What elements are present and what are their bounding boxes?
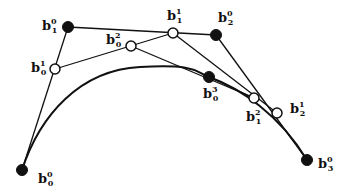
label-b0_2: b20	[106, 30, 122, 49]
segment-b0_2-b1_2	[131, 46, 254, 98]
segment-b1_1-b2_1	[173, 33, 277, 113]
bezier-curve	[22, 66, 307, 170]
segment-b0_0-b1_0	[22, 27, 68, 170]
open-point-b2_1	[272, 108, 282, 118]
segment-b2_0-b3_0	[216, 35, 307, 160]
filled-point-b0_3	[204, 72, 215, 83]
label-b1_0: b01	[42, 16, 57, 35]
label-b0_3: b30	[203, 84, 219, 103]
open-point-b0_2	[126, 41, 136, 51]
segment-b1_0-b2_0	[68, 27, 216, 35]
control-points	[17, 22, 313, 176]
filled-point-b3_0	[302, 155, 313, 166]
filled-point-b0_0	[17, 165, 28, 176]
label-b1_2: b21	[246, 107, 261, 126]
filled-point-b1_0	[63, 22, 74, 33]
open-point-b1_1	[168, 28, 178, 38]
open-point-b1_2	[249, 93, 259, 103]
label-b0_1: b10	[31, 58, 47, 77]
open-point-b0_1	[50, 64, 60, 74]
label-b0_0: b00	[38, 169, 54, 187]
bezier-diagram: b00b01b02b03b10b11b12b20b21b30	[0, 0, 347, 187]
label-b2_0: b02	[218, 8, 233, 27]
label-b3_0: b03	[318, 154, 334, 173]
bezier-curve-path	[22, 66, 307, 170]
label-b2_1: b12	[290, 99, 305, 118]
label-b1_1: b11	[167, 6, 182, 25]
filled-point-b2_0	[211, 30, 222, 41]
